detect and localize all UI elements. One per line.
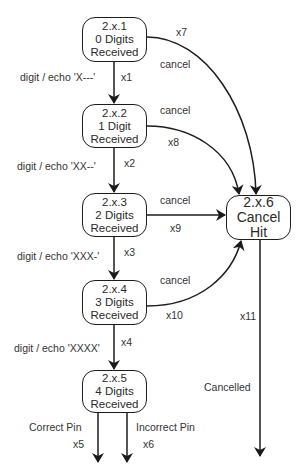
state-2x4: 2.x.4 3 Digits Received (82, 280, 147, 325)
state-title: Cancel (237, 210, 281, 225)
state-id: 2.x.4 (102, 283, 127, 296)
state-id: 2.x.3 (102, 196, 127, 209)
transition-x9-id: x9 (170, 222, 181, 234)
state-2x2: 2.x.2 1 Digit Received (82, 104, 147, 148)
transition-x8-arrow (147, 126, 239, 194)
state-subtitle: Received (91, 222, 139, 235)
transition-x6-id: x6 (143, 438, 154, 450)
transition-x10-id: x10 (166, 309, 183, 321)
transition-x2-id: x2 (124, 157, 135, 169)
transition-x7-event: cancel (160, 58, 190, 70)
transition-x6-event: Incorrect Pin (136, 421, 195, 433)
state-2x3: 2.x.3 2 Digits Received (82, 193, 147, 237)
state-title: 4 Digits (95, 385, 133, 398)
transition-x4-event: digit / echo 'XXXX' (14, 342, 100, 354)
state-id: 2.x.1 (102, 20, 127, 33)
state-title: 1 Digit (98, 120, 131, 133)
transition-x9-event: cancel (160, 194, 190, 206)
transition-x11-id: x11 (240, 310, 256, 322)
state-subtitle: Received (91, 46, 139, 59)
transition-x8-event: cancel (160, 104, 190, 116)
transition-x4-id: x4 (121, 336, 132, 348)
state-title: 3 Digits (95, 296, 133, 309)
transition-x1-id: x1 (121, 71, 132, 83)
state-id: 2.x.5 (102, 372, 127, 385)
state-2x5: 2.x.5 4 Digits Received (82, 370, 147, 413)
transition-x5-id: x5 (73, 438, 84, 450)
transition-x3-id: x3 (124, 246, 135, 258)
state-2x1: 2.x.1 0 Digits Received (82, 17, 147, 62)
state-subtitle: Received (91, 309, 139, 322)
transition-x8-id: x8 (168, 136, 179, 148)
transition-x10-event: cancel (160, 274, 190, 286)
transition-x7-id: x7 (176, 26, 187, 38)
transition-x5-event: Correct Pin (29, 421, 82, 433)
transition-x1-event: digit / echo 'X---' (20, 71, 95, 83)
state-id: 2.x.6 (243, 195, 273, 210)
transition-x2-event: digit / echo 'XX--' (17, 160, 96, 172)
state-2x6: 2.x.6 Cancel Hit (226, 195, 291, 240)
state-subtitle: Hit (250, 225, 267, 240)
state-title: 0 Digits (95, 33, 133, 46)
state-id: 2.x.2 (102, 107, 127, 120)
transition-x11-event: Cancelled (204, 381, 251, 393)
state-subtitle: Received (91, 133, 139, 146)
state-title: 2 Digits (95, 209, 133, 222)
transition-x3-event: digit / echo 'XXX-' (17, 250, 99, 262)
state-subtitle: Received (91, 398, 139, 411)
